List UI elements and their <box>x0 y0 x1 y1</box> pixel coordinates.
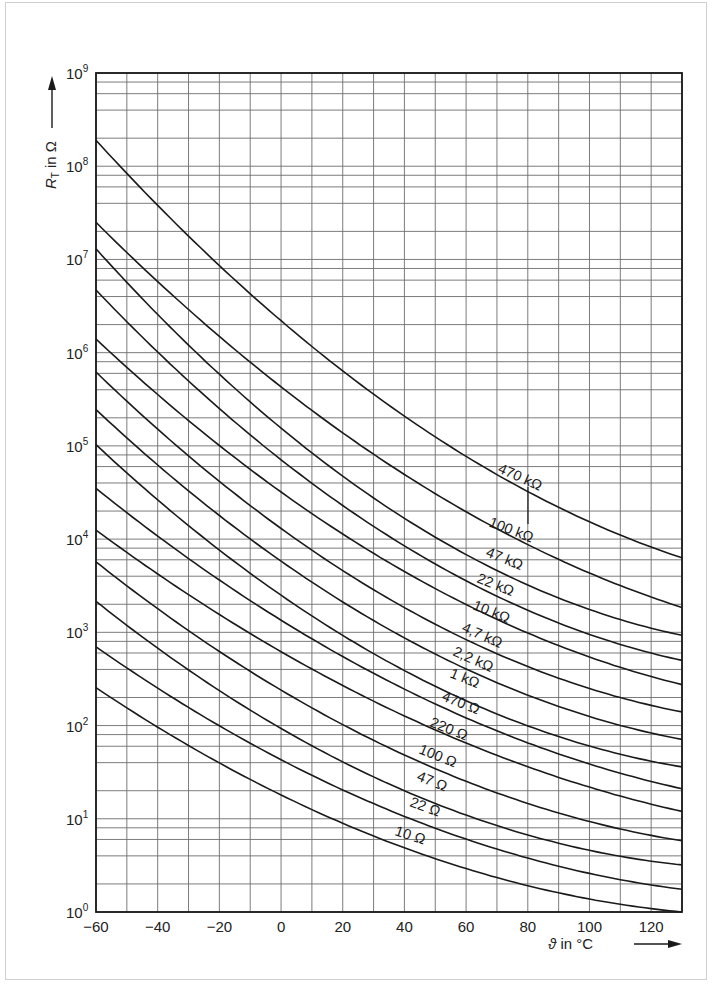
x-axis-tick-labels: −60−40−20020406080100120 <box>83 918 663 935</box>
y-title-main: R <box>42 178 59 189</box>
curve-label: 22 Ω <box>408 794 443 820</box>
curve-labels: 470 kΩ100 kΩ47 kΩ22 kΩ10 kΩ4,7 kΩ2,2 kΩ1… <box>393 460 545 847</box>
x-axis-arrow-icon <box>634 940 682 948</box>
curve-3 <box>96 290 682 660</box>
y-tick-label: 104 <box>66 529 89 548</box>
x-tick-label: 60 <box>458 918 475 935</box>
curve-0 <box>96 140 682 558</box>
x-tick-label: 40 <box>396 918 413 935</box>
x-tick-label: −20 <box>207 918 232 935</box>
x-tick-label: −40 <box>145 918 170 935</box>
curve-label: 100 kΩ <box>487 514 536 546</box>
y-axis-tick-labels: 100101102103104105106107108109 <box>66 63 89 921</box>
curve-label: 10 Ω <box>393 823 428 848</box>
curve-12 <box>96 647 682 890</box>
svg-text:ϑ in °C: ϑ in °C <box>548 935 593 952</box>
curve-2 <box>96 249 682 636</box>
curve-label: 470 Ω <box>440 688 482 718</box>
y-title-rest: in Ω <box>42 141 59 172</box>
grid <box>96 73 682 912</box>
y-tick-label: 108 <box>66 156 89 175</box>
y-tick-label: 101 <box>66 809 89 828</box>
curve-13 <box>96 688 682 912</box>
curves <box>96 140 682 912</box>
thermistor-resistance-chart: 470 kΩ100 kΩ47 kΩ22 kΩ10 kΩ4,7 kΩ2,2 kΩ1… <box>0 0 712 993</box>
y-tick-label: 107 <box>66 249 89 268</box>
y-tick-label: 103 <box>66 622 89 641</box>
curve-10 <box>96 562 682 841</box>
x-tick-label: 100 <box>577 918 602 935</box>
x-tick-label: 80 <box>519 918 536 935</box>
x-tick-label: 120 <box>639 918 664 935</box>
curve-5 <box>96 372 682 712</box>
y-axis-arrow-icon <box>48 76 56 128</box>
curve-label: 220 Ω <box>428 714 470 744</box>
x-tick-label: −60 <box>83 918 108 935</box>
y-tick-label: 105 <box>66 436 89 455</box>
curve-label: 470 kΩ <box>496 460 545 494</box>
y-tick-label: 102 <box>66 716 89 735</box>
y-tick-label: 106 <box>66 343 89 362</box>
x-axis-title: ϑ in °C <box>548 935 593 952</box>
x-title-rest: in °C <box>556 935 593 952</box>
plot-area-border <box>96 73 682 912</box>
curve-label: 100 Ω <box>417 741 459 771</box>
x-tick-label: 0 <box>277 918 285 935</box>
curve-11 <box>96 601 682 865</box>
svg-text:RT in Ω: RT in Ω <box>42 141 61 189</box>
y-tick-label: 109 <box>66 63 89 82</box>
x-tick-label: 20 <box>334 918 351 935</box>
y-axis-title: RT in Ω <box>42 141 61 189</box>
curve-9 <box>96 530 682 811</box>
